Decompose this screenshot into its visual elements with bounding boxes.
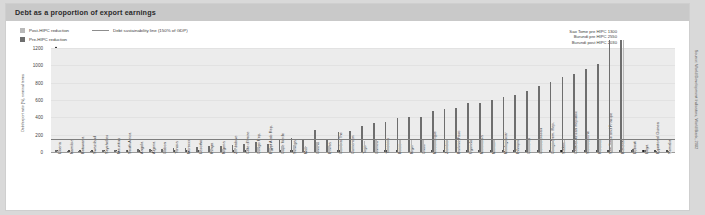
bar-groups [51, 48, 675, 152]
bar-post-hipc [93, 151, 95, 152]
x-tick-label: Benin [391, 154, 403, 212]
x-tick-label: Niger [403, 154, 415, 212]
bar-group [440, 48, 452, 152]
bar-group [240, 48, 252, 152]
bar-group [452, 48, 464, 152]
bar-post-hipc [57, 151, 59, 152]
bar-post-hipc [175, 150, 177, 152]
bar-group [593, 48, 605, 152]
bar-post-hipc [104, 151, 106, 152]
x-tick-label: Madagascar [497, 154, 509, 212]
y-tick-label: 1000 [33, 63, 43, 68]
bar-post-hipc [634, 151, 636, 152]
x-tick-label: Egypt Arab Rep. [262, 154, 274, 212]
bar-post-hipc [646, 151, 648, 152]
bar-post-hipc [458, 139, 460, 152]
y-axis-title: Debt/export ratio (%), nominal terms [19, 48, 27, 158]
legend-swatch-pre-hipc [20, 37, 25, 42]
bar-group [404, 48, 416, 152]
bar-post-hipc [493, 139, 495, 152]
debt-sustainability-line [51, 139, 675, 140]
y-tick-label: 800 [35, 80, 43, 85]
y-tick-label: 1200 [33, 46, 43, 51]
x-tick-label: Somalia [661, 154, 673, 212]
x-tick-label: Mali [297, 154, 309, 212]
x-tick-label: Togo [356, 154, 368, 212]
bar-group [499, 48, 511, 152]
bar-group [652, 48, 664, 152]
x-tick-label: Ghana [309, 154, 321, 212]
bar-post-hipc [210, 149, 212, 152]
x-tick-label: Djibouti [626, 154, 638, 212]
x-axis-labels: LiberiaNamibiaBotswanaSwazilandSeychelle… [51, 154, 673, 212]
chart-legend: Post-HIPC reduction Pre-HIPC reduction D… [20, 26, 540, 48]
y-tick-label: 0 [40, 150, 43, 155]
bar-group [181, 48, 193, 152]
x-tick-label: Rwanda [591, 154, 603, 212]
x-tick-label: Algeria [145, 154, 157, 212]
bar-post-hipc [446, 139, 448, 152]
x-tick-label: Nigeria [215, 154, 227, 212]
bar-pre-hipc [609, 40, 611, 152]
bar-post-hipc [316, 142, 318, 152]
bar-group [51, 48, 63, 152]
bar-group [393, 48, 405, 152]
x-tick-label: Cameroon [344, 154, 356, 212]
bar-group [86, 48, 98, 152]
bar-post-hipc [517, 139, 519, 152]
legend-line-icon [92, 30, 109, 31]
screenshot-root: Debt as a proportion of export earnings … [0, 0, 705, 215]
bar-group [369, 48, 381, 152]
x-tick-label: Botswana [74, 154, 86, 212]
bar-post-hipc [528, 139, 530, 152]
y-tick-label: 400 [35, 115, 43, 120]
x-tick-label: Uganda [462, 154, 474, 212]
bar-post-hipc [246, 148, 248, 152]
bar-group [546, 48, 558, 152]
x-tick-label: Chad [415, 154, 427, 212]
bar-post-hipc [599, 139, 601, 152]
bar-group [298, 48, 310, 152]
bar-post-hipc [434, 139, 436, 152]
x-tick-label: Senegal [286, 154, 298, 212]
bar-group [510, 48, 522, 152]
x-tick-label: Burkina Faso [450, 154, 462, 212]
bar-post-hipc [163, 150, 165, 152]
bar-post-hipc [257, 147, 259, 152]
bar-group [463, 48, 475, 152]
bar-group [357, 48, 369, 152]
bar-post-hipc [340, 143, 342, 152]
bar-group [605, 48, 617, 152]
bar-group [322, 48, 334, 152]
bar-group [416, 48, 428, 152]
x-tick-label: Swaziland [86, 154, 98, 212]
bar-group [346, 48, 358, 152]
x-tick-label: Liberia [51, 154, 63, 212]
x-tick-label: Central African Republic [567, 154, 579, 212]
bar-post-hipc [411, 139, 413, 152]
x-tick-label: Seychelles [98, 154, 110, 212]
bar-post-hipc [587, 139, 589, 152]
bar-post-hipc [552, 139, 554, 152]
bar-group [275, 48, 287, 152]
legend-item-pre-hipc: Pre-HIPC reduction [20, 35, 69, 44]
x-tick-label: Tanzania [380, 154, 392, 212]
bar-group [310, 48, 322, 152]
chart-title-bar: Debt as a proportion of export earnings [6, 4, 689, 21]
bar-post-hipc [564, 139, 566, 152]
bar-post-hipc [328, 146, 330, 152]
bar-group [487, 48, 499, 152]
bar-group [263, 48, 275, 152]
bar-post-hipc [481, 139, 483, 152]
y-tick-label: 200 [35, 132, 43, 137]
x-tick-label: Ethiopia [509, 154, 521, 212]
page-title: Debt as a proportion of export earnings [6, 8, 156, 17]
x-tick-label: Lesotho [192, 154, 204, 212]
bar-group [216, 48, 228, 152]
x-tick-label: Zimbabwe [227, 154, 239, 212]
x-tick-label: Comoros [520, 154, 532, 212]
bar-group [122, 48, 134, 152]
x-tick-label: Eritrea [321, 154, 333, 212]
bar-group [581, 48, 593, 152]
bar-group [381, 48, 393, 152]
